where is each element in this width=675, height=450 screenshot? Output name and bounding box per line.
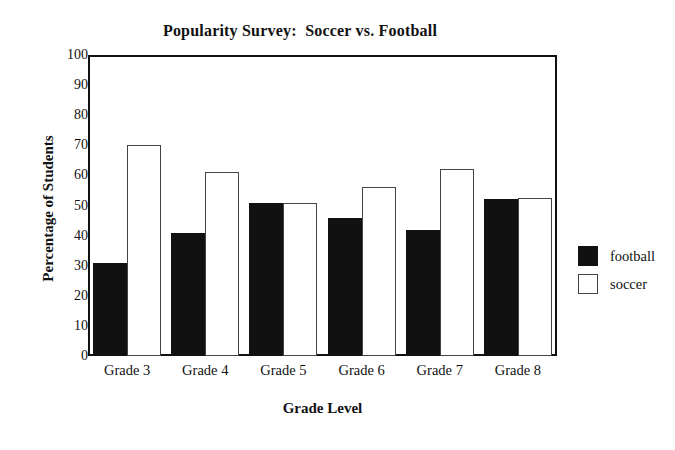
bar-football-grade-4: [171, 233, 205, 356]
x-axis-tick-labels: Grade 3Grade 4Grade 5Grade 6Grade 7Grade…: [88, 362, 557, 388]
legend-item-soccer: soccer: [578, 270, 673, 298]
legend-swatch-football: [578, 246, 598, 266]
y-tick-label: 70: [6, 138, 88, 152]
bar-group: [406, 55, 474, 356]
bar-soccer-grade-7: [440, 169, 474, 356]
bar-soccer-grade-4: [205, 172, 239, 356]
y-tick-label: 0: [6, 349, 88, 363]
bar-soccer-grade-6: [362, 187, 396, 356]
bar-football-grade-7: [406, 230, 440, 356]
x-tick-label: Grade 4: [160, 362, 250, 379]
bar-soccer-grade-3: [127, 145, 161, 356]
x-tick-label: Grade 5: [238, 362, 328, 379]
bar-soccer-grade-8: [518, 198, 552, 356]
legend: footballsoccer: [578, 242, 673, 298]
legend-label: football: [610, 248, 655, 265]
bar-football-grade-5: [249, 203, 283, 357]
legend-label: soccer: [610, 276, 647, 293]
y-tick-label: 10: [6, 319, 88, 333]
y-tick-label: 60: [6, 168, 88, 182]
bar-soccer-grade-5: [283, 203, 317, 357]
bars-container: [88, 55, 557, 356]
bar-group: [328, 55, 396, 356]
bar-group: [249, 55, 317, 356]
x-tick-label: Grade 6: [317, 362, 407, 379]
y-tick-label: 80: [6, 108, 88, 122]
y-tick-label: 40: [6, 229, 88, 243]
bar-group: [484, 55, 552, 356]
bar-group: [93, 55, 161, 356]
x-axis-title: Grade Level: [88, 400, 557, 417]
x-tick-label: Grade 7: [395, 362, 485, 379]
y-axis-tick-labels: 0102030405060708090100: [0, 0, 88, 450]
y-tick-label: 30: [6, 259, 88, 273]
x-tick-label: Grade 8: [473, 362, 563, 379]
bar-group: [171, 55, 239, 356]
bar-football-grade-3: [93, 263, 127, 356]
y-tick-label: 50: [6, 199, 88, 213]
y-tick-label: 100: [6, 48, 88, 62]
bar-football-grade-6: [328, 218, 362, 356]
chart-title: Popularity Survey: Soccer vs. Football: [0, 22, 600, 40]
chart-figure: Popularity Survey: Soccer vs. Football P…: [0, 0, 675, 450]
y-tick-label: 90: [6, 78, 88, 92]
bar-football-grade-8: [484, 199, 518, 356]
legend-item-football: football: [578, 242, 673, 270]
x-tick-label: Grade 3: [82, 362, 172, 379]
y-tick-label: 20: [6, 289, 88, 303]
legend-swatch-soccer: [578, 274, 598, 294]
